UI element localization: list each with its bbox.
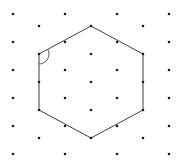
lattice-dot	[64, 153, 67, 156]
lattice-dot	[168, 13, 171, 16]
lattice-dot	[168, 153, 171, 156]
geometry-figure	[0, 0, 184, 160]
lattice-dot	[64, 13, 67, 16]
lattice-dot	[64, 69, 67, 72]
lattice-dot	[64, 125, 67, 128]
hexagon-dot-lattice-svg	[0, 0, 184, 160]
lattice-dot	[142, 53, 145, 56]
lattice-dot	[168, 125, 171, 128]
lattice-dot	[168, 97, 171, 100]
lattice-dot	[142, 137, 145, 140]
lattice-dot	[90, 109, 93, 112]
lattice-dot	[142, 81, 145, 84]
lattice-dot	[116, 125, 119, 128]
lattice-dot	[12, 125, 15, 128]
lattice-dot	[90, 137, 93, 140]
lattice-dot	[38, 81, 41, 84]
lattice-dot	[116, 153, 119, 156]
lattice-dot	[38, 137, 41, 140]
lattice-dot	[38, 109, 41, 112]
lattice-dot	[12, 153, 15, 156]
lattice-dot	[38, 25, 41, 28]
lattice-dot	[12, 97, 15, 100]
lattice-dot	[116, 69, 119, 72]
lattice-dot	[90, 25, 93, 28]
lattice-dot	[90, 81, 93, 84]
lattice-dot	[116, 41, 119, 44]
lattice-dot	[142, 109, 145, 112]
lattice-dot	[116, 97, 119, 100]
lattice-dot	[38, 53, 41, 56]
lattice-dot	[64, 97, 67, 100]
lattice-dot	[168, 69, 171, 72]
lattice-dot	[90, 53, 93, 56]
lattice-dot	[142, 25, 145, 28]
lattice-dot	[116, 13, 119, 16]
lattice-dot	[12, 41, 15, 44]
lattice-dot	[12, 13, 15, 16]
lattice-dot	[168, 41, 171, 44]
lattice-dot	[64, 41, 67, 44]
lattice-dot	[12, 69, 15, 72]
